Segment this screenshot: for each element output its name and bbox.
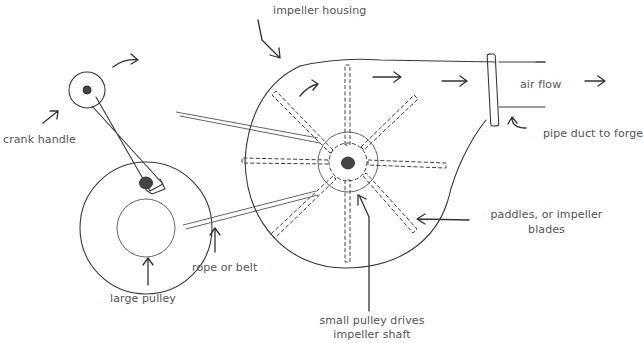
arrow-icon [143,258,153,285]
arrow-icon [508,117,526,128]
arrow-icon [373,72,401,82]
label-impeller-housing: impeller housing [273,3,366,18]
label-paddles-line1: paddles, or impeller [483,207,610,222]
crank-handle [69,72,165,194]
label-air-flow: air flow [520,77,561,92]
label-large-pulley: large pulley [110,291,176,306]
label-rope-or-belt: rope or belt [192,260,257,275]
label-paddles: paddles, or impeller blades [483,207,610,237]
label-paddles-line2: blades [483,222,610,237]
arrows [43,20,605,311]
label-small-pulley-line2: impeller shaft [318,328,426,342]
label-crank-handle: crank handle [3,132,76,147]
arrow-icon [442,76,467,86]
arrow-icon [258,20,280,58]
label-small-pulley-line1: small pulley drives [318,314,426,328]
arrow-icon [585,76,605,86]
arrow-icon [300,80,318,96]
arrow-icon [417,214,469,224]
label-small-pulley: small pulley drives impeller shaft [318,314,426,342]
label-pipe-duct: pipe duct to forge [543,126,643,141]
arrow-icon [43,111,58,123]
arrow-icon [113,54,138,67]
arrow-icon [358,195,369,311]
rope-or-belt [176,112,320,229]
